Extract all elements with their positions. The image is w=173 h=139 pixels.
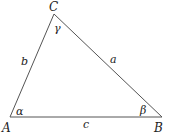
vertex-label-b: B (153, 121, 163, 135)
side-label-a: a (110, 53, 117, 66)
triangle-shape (10, 14, 162, 117)
angle-label-beta: β (139, 104, 146, 117)
side-label-c: c (83, 118, 89, 131)
angle-label-gamma: γ (54, 22, 61, 35)
vertex-label-a: A (1, 121, 11, 135)
angle-label-alpha: α (16, 105, 24, 118)
vertex-label-c: C (49, 0, 58, 14)
triangle-diagram: C A B a b c α β γ (0, 0, 173, 139)
side-label-b: b (21, 55, 28, 68)
